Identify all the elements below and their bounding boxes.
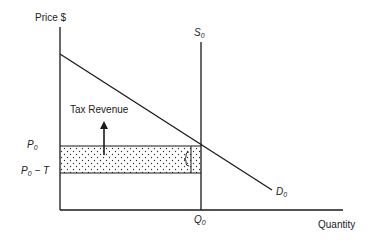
q0-label: Q0 (194, 214, 206, 226)
tax-revenue-region (60, 146, 201, 173)
p0-label: P0 (27, 139, 38, 151)
y-axis-label: Price $ (35, 12, 66, 23)
arrow-head-icon (100, 121, 108, 129)
demand-label: D0 (276, 186, 287, 198)
tax-revenue-label: Tax Revenue (70, 104, 128, 115)
tax-diagram (0, 0, 378, 246)
supply-label: S0 (194, 27, 205, 39)
p0-minus-t-label: P0 − T (21, 165, 49, 177)
x-axis-label: Quantity (318, 219, 355, 230)
